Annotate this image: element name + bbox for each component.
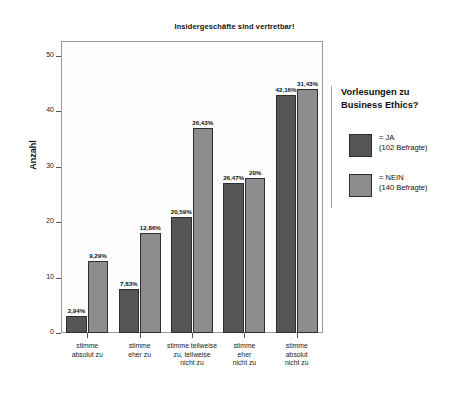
- bar-value-label: 31,43%: [292, 80, 323, 87]
- bar-value-label: 12,86%: [135, 224, 166, 231]
- bar-ja-2: [171, 217, 192, 333]
- x-tick-mark: [140, 333, 141, 338]
- chart-title: Insidergeschäfte sind vertretbar!: [0, 22, 469, 31]
- y-tick-label: 30: [46, 162, 54, 169]
- bar-ja-4: [276, 95, 297, 333]
- legend-swatch-nein: [349, 174, 372, 197]
- legend-label: = NEIN (140 Befragte): [379, 173, 428, 192]
- bar-nein-2: [193, 128, 214, 333]
- bar-value-label: 26,43%: [188, 119, 219, 126]
- legend-item-ja: = JA (102 Befragte): [349, 133, 428, 157]
- bar-nein-3: [245, 178, 266, 333]
- x-tick-mark: [87, 333, 88, 338]
- y-tick-label: 40: [46, 106, 54, 113]
- bar-ja-1: [119, 289, 140, 333]
- plot-area: 2,94%9,29%7,83%12,86%20,59%26,43%26,47%2…: [61, 41, 323, 333]
- y-tick-label: 50: [46, 51, 54, 58]
- legend-label: = JA (102 Befragte): [379, 133, 428, 152]
- x-tick-mark: [297, 333, 298, 338]
- chart-figure: Insidergeschäfte sind vertretbar! Anzahl…: [0, 0, 469, 394]
- bar-ja-0: [66, 316, 87, 333]
- x-category-label-4: stimme absolut nicht zu: [264, 342, 330, 368]
- bar-nein-1: [140, 233, 161, 333]
- bar-ja-3: [223, 183, 244, 333]
- bar-value-label: 9,29%: [83, 252, 114, 259]
- legend-item-nein: = NEIN (140 Befragte): [349, 173, 428, 197]
- legend-swatch-ja: [349, 134, 372, 157]
- bar-nein-0: [88, 261, 109, 333]
- bar-value-label: 20%: [240, 169, 271, 176]
- legend-title: Vorlesungen zu Business Ethics?: [341, 86, 469, 111]
- y-tick-mark: [56, 333, 61, 334]
- legend: Vorlesungen zu Business Ethics? = JA (10…: [331, 86, 469, 208]
- x-tick-mark: [244, 333, 245, 338]
- y-tick-label: 0: [50, 328, 54, 335]
- y-tick-label: 20: [46, 217, 54, 224]
- bar-nein-4: [297, 89, 318, 333]
- x-tick-mark: [192, 333, 193, 338]
- y-tick-label: 10: [46, 273, 54, 280]
- y-axis-title: Anzahl: [28, 115, 38, 195]
